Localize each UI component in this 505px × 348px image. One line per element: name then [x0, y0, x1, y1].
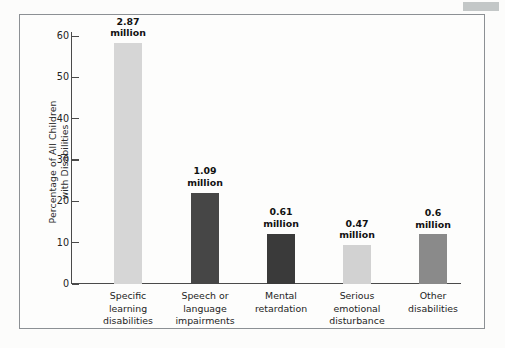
- bar-value-number-2: 0.61: [242, 206, 320, 218]
- bar-value-number-0: 2.87: [89, 16, 167, 28]
- bar-mental-retardation[interactable]: [267, 234, 295, 284]
- bar-value-number-4: 0.6: [394, 207, 472, 219]
- category-label-specific-learning-disabilities: Specific learning disabilities: [86, 290, 170, 328]
- bar-column-3: 0.47 million: [318, 32, 396, 284]
- category-label-0-line-2: disabilities: [86, 315, 170, 328]
- y-tick-label-60: 60: [57, 30, 69, 42]
- bar-other-disabilities[interactable]: [419, 234, 447, 284]
- category-label-0-line-0: Specific: [86, 290, 170, 303]
- category-label-2-line-0: Mental: [239, 290, 323, 303]
- category-label-2-line-1: retardation: [239, 303, 323, 316]
- bar-value-3: 0.47 million: [318, 218, 396, 241]
- bar-value-unit-3: million: [318, 229, 396, 241]
- category-label-3-line-1: emotional: [315, 303, 399, 316]
- bar-value-number-1: 1.09: [166, 165, 244, 177]
- bar-column-0: 2.87 million: [89, 32, 167, 284]
- category-label-1-line-0: Speech or: [163, 290, 247, 303]
- y-tick-label-20: 20: [57, 195, 69, 207]
- bar-value-0: 2.87 million: [89, 16, 167, 39]
- bar-value-number-3: 0.47: [318, 218, 396, 230]
- category-label-1-line-2: impairments: [163, 315, 247, 328]
- bar-value-unit-4: million: [394, 219, 472, 231]
- bar-column-1: 1.09 million: [166, 32, 244, 284]
- bar-chart: Percentage of All Children with Disabili…: [19, 14, 485, 329]
- category-label-other-disabilities: Other disabilities: [391, 290, 475, 315]
- bar-column-2: 0.61 million: [242, 32, 320, 284]
- category-label-3-line-2: disturbance: [315, 315, 399, 328]
- bar-value-unit-1: million: [166, 177, 244, 189]
- category-label-0-line-1: learning: [86, 303, 170, 316]
- bar-specific-learning-disabilities[interactable]: [114, 43, 142, 284]
- bar-value-2: 0.61 million: [242, 206, 320, 229]
- bar-column-4: 0.6 million: [394, 32, 472, 284]
- category-label-mental-retardation: Mental retardation: [239, 290, 323, 315]
- bar-serious-emotional-disturbance[interactable]: [343, 245, 371, 284]
- category-label-1-line-1: language: [163, 303, 247, 316]
- category-label-4-line-1: disabilities: [391, 303, 475, 316]
- category-label-3-line-0: Serious: [315, 290, 399, 303]
- y-tick-label-10: 10: [57, 237, 69, 249]
- bar-value-unit-2: million: [242, 218, 320, 230]
- category-label-4-line-0: Other: [391, 290, 475, 303]
- x-axis-category-labels: Specific learning disabilities Speech or…: [71, 290, 461, 338]
- y-tick-label-30: 30: [57, 154, 69, 166]
- bar-value-4: 0.6 million: [394, 207, 472, 230]
- bars-group: 2.87 million 1.09 million 0.61 million 0…: [71, 32, 461, 284]
- bar-value-1: 1.09 million: [166, 165, 244, 188]
- category-label-speech-or-language-impairments: Speech or language impairments: [163, 290, 247, 328]
- y-tick-label-40: 40: [57, 113, 69, 125]
- bar-speech-or-language-impairments[interactable]: [191, 193, 219, 284]
- bar-value-unit-0: million: [89, 27, 167, 39]
- y-tick-label-50: 50: [57, 71, 69, 83]
- scan-artifact: [463, 2, 499, 11]
- category-label-serious-emotional-disturbance: Serious emotional disturbance: [315, 290, 399, 328]
- y-tick-label-0: 0: [63, 278, 69, 290]
